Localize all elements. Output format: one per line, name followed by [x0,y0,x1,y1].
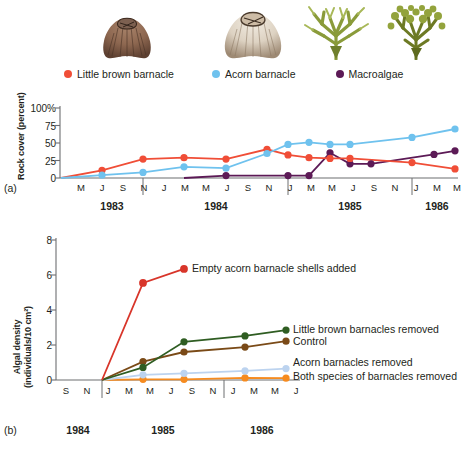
panel-a-xtick-8: S [245,182,251,193]
panel-b-annotation-little-brown-removed: Little brown barnacles removed [293,323,439,335]
panel-b-series-control-line [102,341,286,380]
panel-a-rock-cover: (a) Rock cover (percent) Little brown ba… [0,62,464,217]
panel-b-y-ticks [51,240,56,380]
figure-container: (a) Rock cover (percent) Little brown ba… [0,0,464,462]
panel-a-xtick-15: N [392,182,399,193]
panel-a-year-1984: 1984 [204,200,227,212]
panel-a-year-1983: 1983 [100,200,123,212]
panel-a-year-1985: 1985 [338,200,361,212]
panel-b-year-separators [102,380,224,398]
panel-a-xtick-9: N [266,182,273,193]
panel-b-xtick-2: J [106,385,111,396]
panel-b-xtick-10: M [271,385,279,396]
macroalgae-photo-2 [382,4,450,60]
panel-a-xtick-0: M [77,182,85,193]
specimen-illustration-strip [0,0,464,62]
panel-b-xtick-1: N [84,385,91,396]
panel-a-xtick-6: M [202,182,210,193]
panel-a-xtick-11: M [307,182,315,193]
panel-a-xtick-4: J [162,182,167,193]
panel-a-xtick-14: S [371,182,377,193]
panel-b-annotation-acorn-removed: Acorn barnacles removed [293,356,413,368]
panel-b-xtick-0: S [63,385,69,396]
panel-b-series-control-points [139,338,289,366]
panel-b-xtick-6: S [189,385,195,396]
panel-a-plot [0,62,464,217]
panel-b-year-1984: 1984 [66,424,89,436]
little-brown-barnacle-photo [98,12,156,60]
panel-b-annotation-empty-shells: Empty acorn barnacle shells added [192,262,356,274]
panel-b-annotation-both-removed: Both species of barnacles removed [293,370,457,382]
panel-a-xtick-2: S [120,182,126,193]
panel-a-xtick-16: J [414,182,419,193]
panel-a-year-1986: 1986 [425,200,448,212]
panel-b-xtick-11: J [294,385,299,396]
panel-a-xtick-3: N [141,182,148,193]
panel-a-xtick-13: J [351,182,356,193]
panel-a-xtick-17: M [433,182,441,193]
panel-b-xtick-3: M [125,385,133,396]
panel-a-y-ticks [55,108,60,178]
panel-b-xtick-4: M [146,385,154,396]
panel-a-series-little-brown-barnacle-points [98,146,458,174]
panel-b-algal-density: (b) Algal density (individuals/10 cm²) 8… [0,228,464,462]
macroalgae-photo-1 [300,4,372,60]
panel-a-xtick-18: M [453,182,461,193]
panel-b-xtick-9: M [250,385,258,396]
panel-b-xtick-8: J [231,385,236,396]
panel-a-xtick-10: J [288,182,293,193]
panel-b-xtick-7: N [210,385,217,396]
panel-a-series-acorn-barnacle-line [61,129,455,178]
panel-a-xtick-12: M [328,182,336,193]
panel-b-annotation-control: Control [293,335,327,347]
panel-a-xtick-7: J [225,182,230,193]
panel-a-xtick-5: M [181,182,189,193]
panel-b-year-1985: 1985 [151,424,174,436]
panel-b-year-1986: 1986 [250,424,273,436]
panel-a-xtick-1: J [100,182,105,193]
acorn-barnacle-photo [218,8,288,60]
panel-b-xtick-5: J [169,385,174,396]
